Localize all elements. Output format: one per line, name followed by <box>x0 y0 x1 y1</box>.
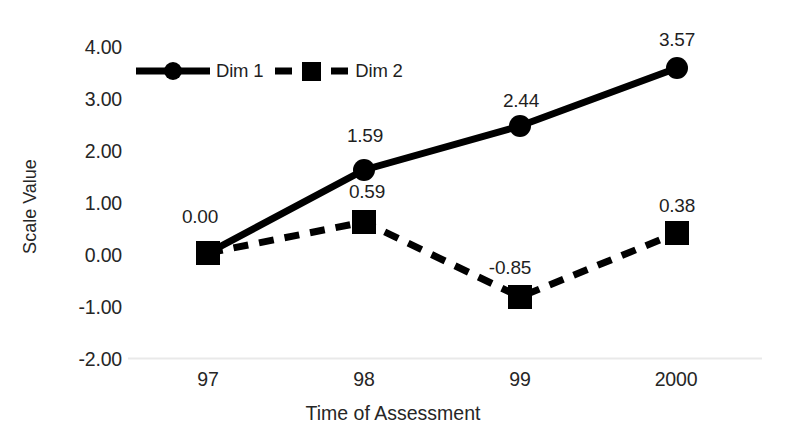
data-label-dim2-2000: 0.38 <box>637 196 717 215</box>
x-tick-label: 2000 <box>631 370 721 390</box>
series-line-dim2 <box>208 222 677 297</box>
square-marker-icon <box>275 60 349 82</box>
circle-marker-icon <box>136 60 210 82</box>
marker-dim1-99 <box>509 115 531 137</box>
data-label-dim2-98: 0.59 <box>327 182 407 201</box>
marker-dim2-99 <box>508 285 532 309</box>
data-label-dim1-2000: 3.57 <box>637 30 717 49</box>
y-tick-label: 0.00 <box>60 246 122 266</box>
y-axis-title: Scale Value <box>20 137 41 277</box>
x-tick-label: 98 <box>319 370 409 390</box>
legend-entry-dim2[interactable]: Dim 2 <box>275 60 402 82</box>
data-label-dim1-98: 1.59 <box>325 126 405 145</box>
legend-label-dim2: Dim 2 <box>355 62 402 81</box>
series-line-dim1 <box>208 68 677 253</box>
legend: Dim 1 Dim 2 <box>136 58 403 84</box>
y-tick-label: 4.00 <box>60 38 122 58</box>
marker-dim1-2000 <box>666 57 688 79</box>
y-tick-label: -1.00 <box>60 298 122 318</box>
marker-dim2-98 <box>352 210 376 234</box>
y-tick-label: -2.00 <box>60 350 122 370</box>
marker-dim1-97 <box>197 242 219 264</box>
legend-entry-dim1[interactable]: Dim 1 <box>136 60 263 82</box>
marker-dim2-2000 <box>665 221 689 245</box>
legend-label-dim1: Dim 1 <box>216 62 263 81</box>
x-axis-title: Time of Assessment <box>243 402 543 425</box>
y-tick-label: 1.00 <box>60 194 122 214</box>
data-label-dim1-99: 2.44 <box>481 91 561 110</box>
line-chart: 4.00 3.00 2.00 1.00 0.00 -1.00 -2.00 97 … <box>0 0 786 439</box>
data-label-dim1-97: 0.00 <box>160 207 240 226</box>
y-tick-label: 2.00 <box>60 142 122 162</box>
data-label-dim2-99: -0.85 <box>470 258 550 277</box>
marker-dim1-98 <box>353 159 375 181</box>
x-tick-label: 99 <box>475 370 565 390</box>
x-tick-label: 97 <box>163 370 253 390</box>
y-tick-label: 3.00 <box>60 90 122 110</box>
